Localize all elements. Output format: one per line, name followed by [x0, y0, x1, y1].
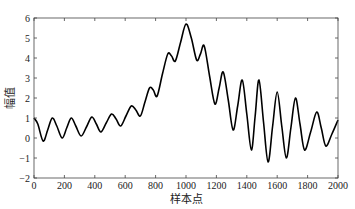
x-tick-label: 2000 — [328, 180, 348, 191]
x-tick-label: 1000 — [176, 180, 196, 191]
x-tick-label: 0 — [32, 180, 37, 191]
y-tick-label: −1 — [19, 153, 30, 164]
y-tick-label: 1 — [25, 113, 30, 124]
x-tick-label: 1400 — [237, 180, 257, 191]
plot-area — [34, 24, 338, 162]
signal-line — [34, 24, 338, 162]
line-chart: 0200400600800100012001400160018002000 −2… — [0, 0, 355, 209]
y-tick-label: 6 — [25, 13, 30, 24]
x-axis-ticks: 0200400600800100012001400160018002000 — [32, 18, 349, 191]
x-axis-label: 样本点 — [170, 192, 203, 206]
y-tick-label: 0 — [25, 133, 30, 144]
y-tick-label: 5 — [25, 33, 30, 44]
y-axis-ticks: −2−10123456 — [19, 13, 338, 184]
x-tick-label: 200 — [57, 180, 72, 191]
x-tick-label: 600 — [118, 180, 133, 191]
y-axis-label: 幅值 — [4, 87, 17, 109]
x-tick-label: 400 — [87, 180, 102, 191]
axes-frame — [34, 18, 338, 178]
y-tick-label: −2 — [19, 173, 30, 184]
y-tick-label: 4 — [25, 53, 30, 64]
x-tick-label: 1200 — [206, 180, 226, 191]
y-tick-label: 2 — [25, 93, 30, 104]
axes — [34, 18, 338, 178]
y-tick-label: 3 — [25, 73, 30, 84]
x-tick-label: 800 — [148, 180, 163, 191]
x-tick-label: 1800 — [298, 180, 318, 191]
x-tick-label: 1600 — [267, 180, 287, 191]
